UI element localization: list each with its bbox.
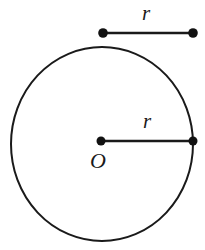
standalone-segment-left-dot (98, 28, 108, 38)
figure-canvas: r r O (0, 0, 205, 250)
circle-radius-figure: r r O (0, 0, 205, 250)
center-point-dot (97, 137, 106, 146)
standalone-segment-right-dot (188, 28, 198, 38)
center-point-label: O (90, 148, 106, 173)
radius-endpoint-dot (189, 137, 198, 146)
standalone-radius-label: r (142, 1, 151, 25)
circle-radius-label: r (143, 109, 152, 133)
